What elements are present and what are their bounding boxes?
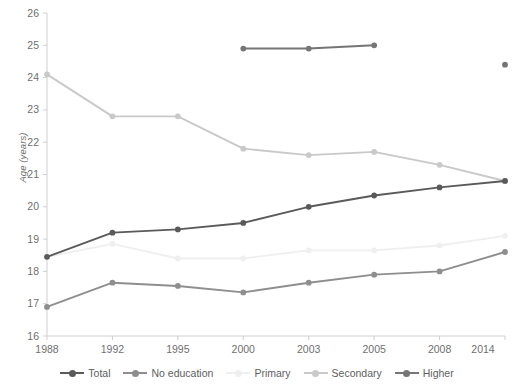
legend-label: Higher [423,367,454,379]
series-secondary [44,71,508,183]
data-point [437,162,443,168]
legend-marker-icon [123,368,147,378]
legend-label: No education [151,367,213,379]
data-point [175,256,181,262]
data-point [437,185,443,191]
data-point [240,289,246,295]
y-tick-label: 21 [13,169,39,180]
data-point [502,62,508,68]
data-point [371,272,377,278]
data-point [371,248,377,254]
data-point [306,46,312,52]
legend-label: Primary [254,367,290,379]
x-tick-label: 2000 [213,344,273,355]
data-point [502,233,508,239]
data-point [437,243,443,249]
chart-legend: TotalNo educationPrimarySecondaryHigher [0,362,514,384]
x-tick-label: 1992 [82,344,142,355]
legend-marker-icon [304,368,328,378]
data-point [240,46,246,52]
legend-label: Total [88,367,110,379]
data-point [306,204,312,210]
data-point [175,283,181,289]
x-tick-label: 1995 [148,344,208,355]
legend-item-total[interactable]: Total [60,367,110,379]
data-point [502,249,508,255]
data-point [371,42,377,48]
series-higher [240,42,508,67]
legend-label: Secondary [332,367,382,379]
data-point [240,146,246,152]
x-tick-label: 2014 [453,344,513,355]
data-point [240,220,246,226]
data-point [306,248,312,254]
y-tick-label: 22 [13,137,39,148]
y-tick-label: 24 [13,72,39,83]
data-point [44,71,50,77]
legend-marker-icon [395,368,419,378]
x-tick-label: 2005 [344,344,404,355]
data-point [44,304,50,310]
legend-item-higher[interactable]: Higher [395,367,454,379]
data-point [175,113,181,119]
y-tick-label: 16 [13,331,39,342]
legend-item-secondary[interactable]: Secondary [304,367,382,379]
data-point [110,241,116,247]
y-tick-label: 23 [13,104,39,115]
data-point [306,280,312,286]
data-point [44,254,50,260]
x-tick-label: 2003 [279,344,339,355]
data-point [371,149,377,155]
y-tick-label: 25 [13,40,39,51]
data-point [110,280,116,286]
plot-area [0,0,514,386]
data-point [306,152,312,158]
x-tick-label: 1988 [17,344,77,355]
y-tick-label: 19 [13,234,39,245]
data-point [437,269,443,275]
line-chart: Age (years) 2625242322212019181716 19881… [0,0,514,386]
y-tick-label: 17 [13,298,39,309]
series-layer [44,42,508,309]
data-point [502,178,508,184]
axes-layer [43,13,505,340]
legend-marker-icon [60,368,84,378]
data-point [110,230,116,236]
data-point [240,256,246,262]
legend-item-primary[interactable]: Primary [226,367,290,379]
series-no-education [44,249,508,310]
data-point [110,113,116,119]
series-primary [44,233,508,261]
y-tick-label: 20 [13,201,39,212]
data-point [371,193,377,199]
y-tick-label: 26 [13,8,39,19]
data-point [175,227,181,233]
legend-marker-icon [226,368,250,378]
y-tick-label: 18 [13,266,39,277]
legend-item-no-education[interactable]: No education [123,367,213,379]
